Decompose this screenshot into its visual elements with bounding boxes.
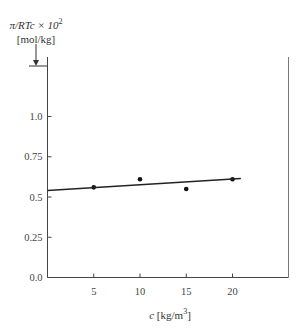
data-series [48, 177, 241, 191]
x-axis-label-unit: [kg/m [157, 309, 183, 321]
arrow-head-icon [33, 60, 39, 66]
x-tick-label: 10 [135, 286, 146, 297]
x-ticks: 5101520 [91, 274, 238, 297]
y-tick-label: 1.0 [29, 111, 42, 122]
y-tick-label: 0.5 [29, 192, 42, 203]
x-axis-label-var: c [149, 309, 154, 321]
x-tick-label: 15 [181, 286, 192, 297]
y-tick-label: 0.75 [24, 151, 42, 162]
y-tick-label: 0.0 [29, 272, 42, 283]
y-tick-label: 0.25 [24, 232, 42, 243]
fit-line [48, 178, 241, 190]
data-point [138, 177, 143, 182]
x-tick-label: 20 [227, 286, 238, 297]
chart-plot-area: 0.00.250.50.751.0 5101520 [0, 0, 303, 329]
x-axis-label-close: ] [187, 309, 191, 321]
data-point [184, 187, 189, 192]
x-tick-label: 5 [91, 286, 96, 297]
